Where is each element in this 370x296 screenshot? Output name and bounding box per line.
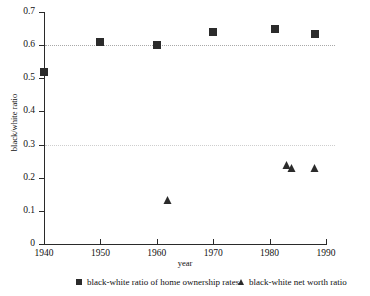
y-tick-label: 0.2 (9, 173, 35, 183)
x-tick-label: 1990 (306, 248, 346, 258)
chart-legend: black-white ratio of home ownership rate… (0, 277, 370, 293)
x-tick-mark (213, 239, 214, 245)
data-point-triangle (164, 196, 172, 204)
y-axis-title: black/white ratio (10, 73, 19, 173)
x-tick-label: 1960 (137, 248, 177, 258)
y-tick-mark (39, 145, 45, 146)
data-point-square (153, 41, 161, 49)
data-point-square (271, 25, 279, 33)
legend-entry: black-white ratio of home ownership rate… (76, 277, 239, 287)
y-tick-label: 0.7 (9, 7, 35, 17)
x-tick-label: 1950 (80, 248, 120, 258)
legend-label: black-white net worth ratio (249, 277, 347, 287)
x-tick-label: 1940 (24, 248, 64, 258)
x-axis-line (44, 244, 327, 245)
x-tick-mark (100, 239, 101, 245)
y-tick-mark (39, 78, 45, 79)
x-tick-mark (44, 239, 45, 245)
y-tick-label: 0.1 (9, 206, 35, 216)
gridline-y-0.3 (45, 145, 335, 147)
x-tick-mark (270, 239, 271, 245)
gridline-y-0.6 (45, 45, 335, 47)
x-tick-label: 1970 (193, 248, 233, 258)
y-tick-mark (39, 45, 45, 46)
y-tick-mark (39, 211, 45, 212)
x-axis-title: year (0, 259, 370, 268)
data-point-square (96, 38, 104, 46)
y-tick-mark (39, 12, 45, 13)
data-point-triangle (288, 164, 296, 172)
legend-label: black-white ratio of home ownership rate… (87, 277, 239, 287)
y-tick-mark (39, 178, 45, 179)
data-point-square (311, 30, 319, 38)
x-tick-mark (157, 239, 158, 245)
legend-entry: black-white net worth ratio (238, 277, 347, 287)
y-tick-mark (39, 111, 45, 112)
data-point-triangle (310, 164, 318, 172)
x-tick-label: 1980 (250, 248, 290, 258)
y-tick-label: 0.6 (9, 40, 35, 50)
legend-square-icon (76, 279, 82, 285)
data-point-square (209, 28, 217, 36)
data-point-square (40, 68, 48, 76)
legend-triangle-icon (238, 279, 244, 285)
x-tick-mark (326, 239, 327, 245)
scatter-chart: 0.70.60.50.40.30.20.10 19401950196019701… (0, 0, 370, 296)
